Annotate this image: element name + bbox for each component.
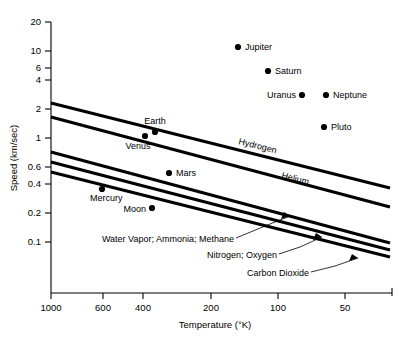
data-label-uranus: Uranus bbox=[267, 90, 297, 100]
data-label-pluto: Pluto bbox=[331, 122, 352, 132]
curve-label-nitrogen-oxygen: Nitrogen; Oxygen bbox=[207, 250, 277, 260]
data-label-mercury: Mercury bbox=[90, 193, 123, 203]
leader-arrowheads bbox=[281, 212, 358, 261]
chart-canvas: 20 10 6 4 2 1 0.6 0.4 0.2 0.1 1000 600 4… bbox=[0, 0, 405, 337]
data-label-saturn: Saturn bbox=[275, 66, 302, 76]
y-tick-label: 4 bbox=[36, 74, 41, 85]
y-axis-title: Speed (km/sec) bbox=[8, 125, 19, 192]
data-label-moon: Moon bbox=[123, 204, 146, 214]
data-point-neptune bbox=[323, 92, 329, 98]
data-point-jupiter bbox=[235, 44, 241, 50]
data-point-mars bbox=[166, 170, 172, 176]
y-tick-label: 6 bbox=[36, 62, 41, 73]
y-axis-tick-labels: 20 10 6 4 2 1 0.6 0.4 0.2 0.1 bbox=[28, 16, 41, 247]
y-tick-label: 20 bbox=[30, 16, 41, 27]
data-point-moon bbox=[149, 205, 155, 211]
y-axis-ticks bbox=[45, 22, 51, 242]
curve-carbon-dioxide bbox=[51, 172, 390, 257]
data-point-saturn bbox=[265, 68, 271, 74]
data-point-mercury bbox=[99, 186, 105, 192]
data-point-uranus bbox=[299, 92, 305, 98]
y-tick-label: 0.4 bbox=[28, 178, 41, 189]
escape-velocity-chart: 20 10 6 4 2 1 0.6 0.4 0.2 0.1 1000 600 4… bbox=[0, 0, 405, 337]
data-point-pluto bbox=[321, 124, 327, 130]
curve-label-carbon-dioxide: Carbon Dioxide bbox=[247, 268, 309, 278]
y-tick-label: 0.2 bbox=[28, 207, 41, 218]
data-label-earth: Earth bbox=[144, 116, 166, 126]
x-axis-ticks bbox=[51, 293, 345, 299]
curve-label-water-vapor-ammonia-methane: Water Vapor; Ammonia; Methane bbox=[102, 234, 234, 244]
x-tick-label: 1000 bbox=[40, 302, 61, 313]
data-label-venus: Venus bbox=[125, 141, 151, 151]
x-tick-label: 200 bbox=[203, 302, 219, 313]
data-label-mars: Mars bbox=[176, 168, 196, 178]
data-label-jupiter: Jupiter bbox=[245, 42, 272, 52]
x-tick-label: 100 bbox=[270, 302, 286, 313]
x-tick-label: 400 bbox=[135, 302, 151, 313]
data-point-venus bbox=[142, 133, 148, 139]
x-axis-title-text: Temperature (°K) bbox=[179, 319, 251, 330]
y-tick-label: 10 bbox=[30, 45, 41, 56]
y-axis-title-text: Speed (km/sec) bbox=[8, 125, 19, 192]
y-tick-label: 2 bbox=[36, 103, 41, 114]
y-tick-label: 1 bbox=[36, 132, 41, 143]
curve-label-helium: Helium bbox=[281, 170, 311, 186]
y-tick-label: 0.6 bbox=[28, 161, 41, 172]
x-tick-label: 600 bbox=[95, 302, 111, 313]
x-axis-tick-labels: 1000 600 400 200 100 50 bbox=[40, 302, 350, 313]
x-axis-title: Temperature (°K) bbox=[179, 319, 251, 330]
data-label-neptune: Neptune bbox=[333, 90, 367, 100]
y-tick-label: 0.1 bbox=[28, 236, 41, 247]
x-tick-label: 50 bbox=[340, 302, 351, 313]
data-point-earth bbox=[152, 129, 158, 135]
